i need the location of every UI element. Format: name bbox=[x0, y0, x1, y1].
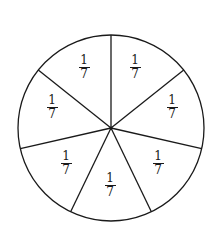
denominator: 7 bbox=[127, 69, 143, 80]
sector-label-5: 1 7 bbox=[58, 151, 74, 176]
denominator: 7 bbox=[44, 109, 60, 120]
numerator: 1 bbox=[127, 55, 143, 66]
sector-label-2: 1 7 bbox=[164, 95, 180, 120]
denominator: 7 bbox=[76, 69, 92, 80]
numerator: 1 bbox=[44, 95, 60, 106]
sector-label-1: 1 7 bbox=[127, 55, 143, 80]
center-point bbox=[109, 126, 112, 129]
denominator: 7 bbox=[150, 165, 166, 176]
fraction-circle bbox=[0, 0, 214, 241]
numerator: 1 bbox=[58, 151, 74, 162]
denominator: 7 bbox=[102, 187, 118, 198]
denominator: 7 bbox=[164, 109, 180, 120]
numerator: 1 bbox=[102, 173, 118, 184]
numerator: 1 bbox=[150, 151, 166, 162]
numerator: 1 bbox=[76, 55, 92, 66]
sector-label-6: 1 7 bbox=[44, 95, 60, 120]
sector-label-3: 1 7 bbox=[150, 151, 166, 176]
numerator: 1 bbox=[164, 95, 180, 106]
sector-label-4: 1 7 bbox=[102, 173, 118, 198]
denominator: 7 bbox=[58, 165, 74, 176]
fraction-circle-diagram: 1 7 1 7 1 7 1 7 1 7 1 7 1 7 bbox=[0, 0, 214, 241]
sector-label-7: 1 7 bbox=[76, 55, 92, 80]
